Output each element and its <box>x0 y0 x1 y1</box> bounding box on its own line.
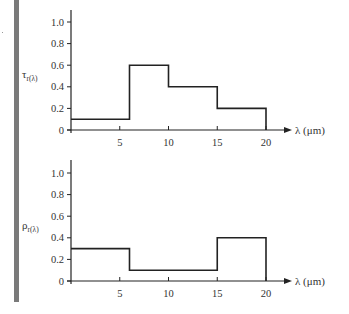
x-tick-label: 10 <box>163 288 174 299</box>
y-tick-label: 0.4 <box>51 232 65 243</box>
y-tick-label: 1.0 <box>51 168 64 179</box>
y-axis-label: ρr(λ) <box>22 219 39 234</box>
y-tick-label: 0.2 <box>51 254 64 265</box>
x-tick-label: 15 <box>212 288 223 299</box>
x-tick-label: 5 <box>117 288 122 299</box>
step-series <box>71 238 266 281</box>
y-tick-label: 0.8 <box>51 189 64 200</box>
y-tick-label: 0.6 <box>51 211 64 222</box>
x-axis-label: λ (μm) <box>295 275 325 288</box>
reflectivity-chart: λ (μm)00.20.40.60.81.05101520ρr(λ) <box>0 0 349 314</box>
arrow-right-icon <box>284 278 292 284</box>
y-tick-label: 0 <box>59 276 64 287</box>
x-tick-label: 20 <box>261 288 272 299</box>
